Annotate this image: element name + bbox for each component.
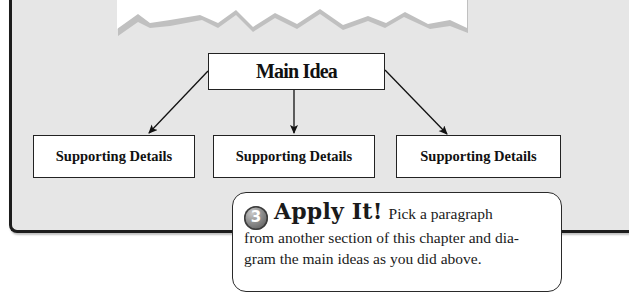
main-idea-label: Main Idea (256, 60, 337, 83)
supporting-details-label: Supporting Details (56, 148, 172, 165)
main-idea-box: Main Idea (208, 53, 385, 90)
supporting-details-box-1: Supporting Details (33, 135, 195, 178)
supporting-details-label: Supporting Details (236, 148, 352, 165)
callout-heading: 3 Apply It! Pick a paragraph (244, 201, 551, 227)
apply-it-callout: 3 Apply It! Pick a paragraph from anothe… (232, 192, 562, 292)
torn-paper-graphic (0, 0, 580, 40)
supporting-details-box-3: Supporting Details (396, 135, 561, 178)
apply-it-body-line-1: from another section of this chapter and… (244, 227, 551, 248)
apply-it-lead-text: Pick a paragraph (389, 203, 493, 224)
step-number-icon: 3 (244, 206, 268, 230)
supporting-details-box-2: Supporting Details (213, 135, 375, 178)
apply-it-body-line-2: gram the main ideas as you did above. (244, 248, 551, 269)
supporting-details-label: Supporting Details (420, 148, 536, 165)
apply-it-title: Apply It! (274, 201, 383, 222)
